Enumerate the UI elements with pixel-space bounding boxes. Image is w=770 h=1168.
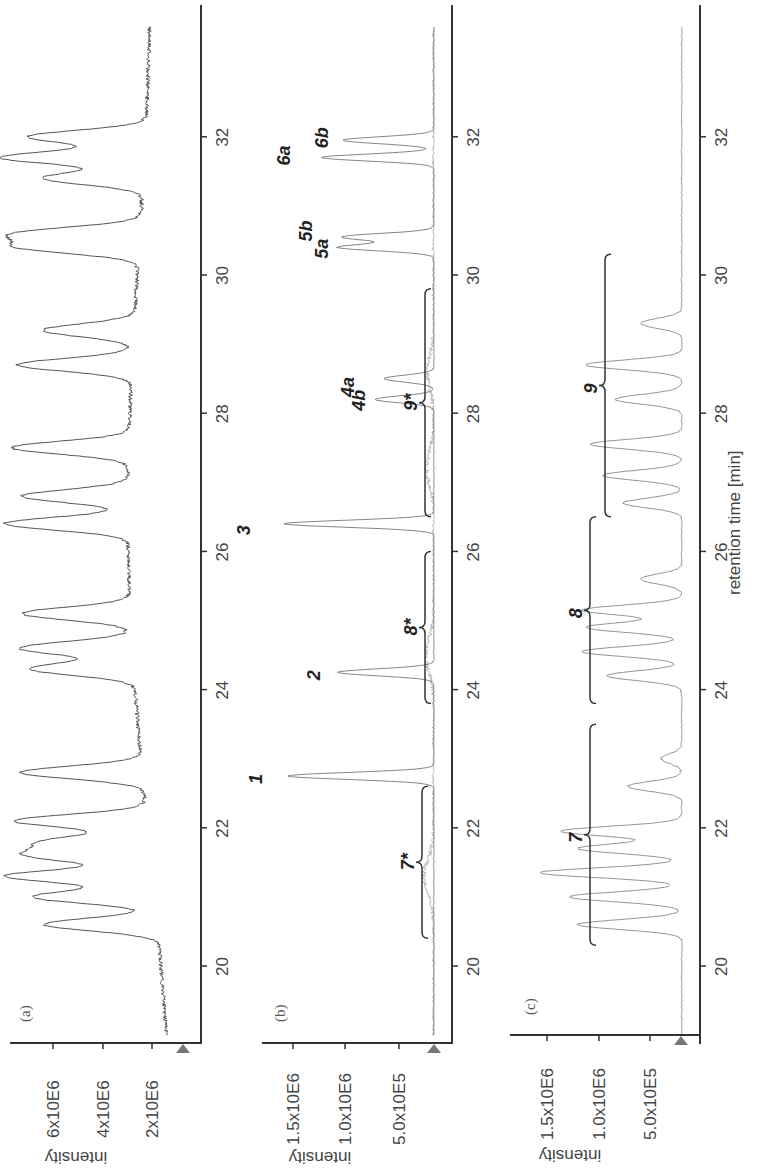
peak-label: 2 [304, 670, 324, 681]
y-tick-label: 5.0x10E5 [390, 1073, 409, 1145]
panel-label-c: (c) [522, 998, 539, 1015]
x-tick-label: 22 [464, 819, 483, 838]
zero-marker-a [176, 1044, 190, 1053]
x-tick-label: 26 [213, 542, 232, 561]
peak-label: 6b [312, 127, 332, 148]
y-axis-title-b: intensity [288, 1148, 351, 1167]
y-tick-label: 1.5x10E6 [284, 1073, 303, 1145]
x-tick-label: 24 [213, 681, 232, 700]
x-tick-label: 32 [213, 128, 232, 147]
panel-label-a: (a) [17, 1005, 34, 1022]
y-tick-label: 4x10E6 [94, 1080, 113, 1138]
chromatogram-figure: 20222426283032 6x10E6 4x10E6 2x10E6 inte… [0, 0, 770, 1168]
peak-group-label: 7 [566, 832, 586, 843]
x-tick-label: 20 [712, 957, 731, 976]
y-tick-label: 5.0x10E5 [641, 1068, 660, 1140]
peak-label: 3 [234, 525, 254, 535]
zero-marker-c [674, 1036, 688, 1045]
x-tick-label: 32 [464, 128, 483, 147]
panel-a: 20222426283032 6x10E6 4x10E6 2x10E6 inte… [0, 5, 232, 1167]
peak-label: 4b [349, 390, 369, 412]
peak-label: 1 [246, 774, 266, 784]
y-tick-label: 1.0x10E6 [590, 1068, 609, 1140]
x-tick-label: 30 [213, 266, 232, 285]
peak-label: 6a [274, 145, 294, 165]
x-tick-label: 32 [712, 128, 731, 147]
x-tick-label: 26 [464, 542, 483, 561]
x-tick-label: 22 [712, 819, 731, 838]
x-tick-label: 28 [464, 404, 483, 423]
x-ticks: 20222426283032 [201, 128, 232, 976]
peak-group-label: 8* [401, 617, 421, 635]
peak-group-label: 9* [401, 393, 421, 411]
x-tick-label: 24 [464, 681, 483, 700]
x-tick-label: 22 [213, 819, 232, 838]
y-tick-label: 1.5x10E6 [538, 1068, 557, 1140]
peak-group-label: 9 [581, 384, 601, 394]
x-tick-label: 30 [464, 266, 483, 285]
y-tick-label: 6x10E6 [44, 1080, 63, 1138]
y-axis-title-a: intensity [44, 1148, 107, 1167]
x-ticks: 20222426283032 [452, 128, 483, 976]
zero-marker-b [427, 1044, 441, 1053]
x-tick-label: 28 [213, 404, 232, 423]
panel-label-b: (b) [272, 1005, 289, 1023]
trace-b-secondary [422, 27, 434, 1035]
y-axis-title-c: intensity [538, 1146, 601, 1165]
trace-a [0, 27, 168, 1035]
x-tick-label: 20 [213, 957, 232, 976]
x-tick-label: 20 [464, 957, 483, 976]
peak-label: 5b [296, 221, 316, 242]
y-tick-label: 1.0x10E6 [336, 1073, 355, 1145]
panel-b: 20222426283032 1.5x10E6 1.0x10E6 5.0x10E… [234, 5, 483, 1167]
panel-c: 20222426283032 1.5x10E6 1.0x10E6 5.0x10E… [510, 5, 744, 1165]
trace-b [284, 27, 434, 1035]
trace-c [541, 27, 682, 1035]
x-tick-label: 30 [712, 266, 731, 285]
x-tick-label: 28 [712, 404, 731, 423]
peak-group-label: 7* [398, 852, 418, 870]
x-tick-label: 24 [712, 681, 731, 700]
y-tick-label: 2x10E6 [143, 1080, 162, 1138]
x-axis-title: retention time [min] [725, 450, 744, 595]
peak-group-label: 8 [566, 608, 586, 618]
